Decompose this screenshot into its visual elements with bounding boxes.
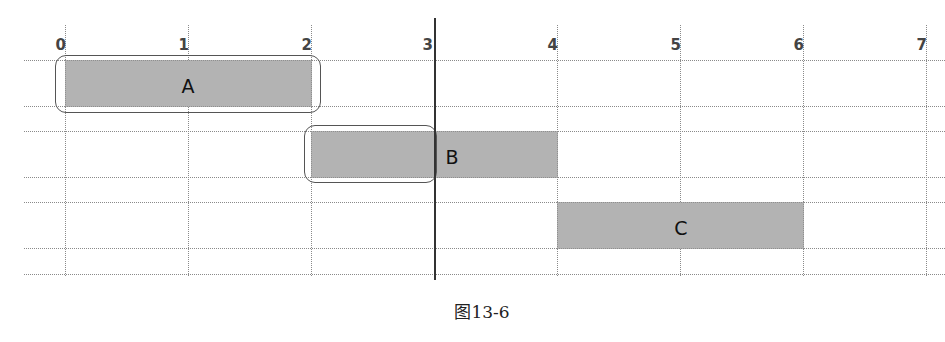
axis-tick-5: 5 [671,36,681,54]
task-label-a: A [182,75,195,97]
gantt-diagram: 0 1 2 3 4 5 6 7 A B C 图13-6 [0,0,945,342]
task-label-c: C [674,217,687,239]
axis-tick-3: 3 [423,36,433,54]
axis-tick-6: 6 [794,36,804,54]
grid-line-h [24,274,945,275]
task-label-b: B [445,146,458,168]
highlight-box-b [304,125,437,183]
axis-tick-2: 2 [302,36,312,54]
grid-line-h [24,248,945,249]
axis-tick-4: 4 [548,36,558,54]
figure-caption: 图13-6 [454,298,509,323]
grid-line-h [24,202,945,203]
axis-tick-1: 1 [179,36,189,54]
grid-line-v [926,25,927,276]
current-time-marker [434,18,436,280]
axis-tick-7: 7 [917,36,927,54]
axis-tick-0: 0 [56,36,66,54]
